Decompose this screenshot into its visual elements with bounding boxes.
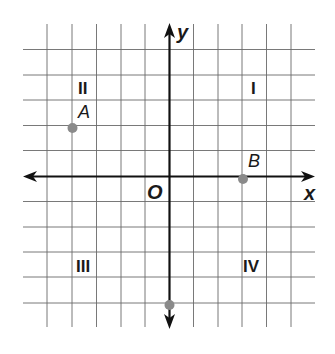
point-b — [238, 174, 248, 184]
quadrant-ii-label: II — [78, 80, 87, 97]
point-a — [68, 123, 78, 133]
y-axis-label: y — [177, 22, 188, 42]
points — [68, 123, 249, 310]
quadrant-iii-label: III — [76, 258, 90, 275]
coordinate-plane — [0, 0, 335, 354]
point-b-label: B — [248, 152, 260, 170]
quadrant-i-label: I — [251, 80, 256, 97]
point-a-label: A — [78, 103, 90, 121]
point-y-minus-5 — [165, 300, 175, 310]
x-axis-label: x — [304, 183, 315, 203]
quadrant-iv-label: IV — [243, 258, 259, 275]
origin-label: O — [147, 182, 163, 202]
